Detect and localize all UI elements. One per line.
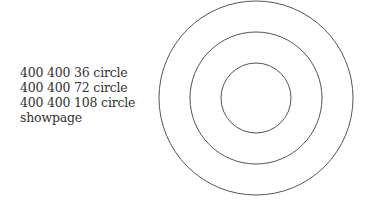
middle-circle xyxy=(190,32,322,164)
outer-circle xyxy=(159,1,353,195)
concentric-circles-figure xyxy=(0,0,368,211)
inner-circle xyxy=(221,63,291,133)
